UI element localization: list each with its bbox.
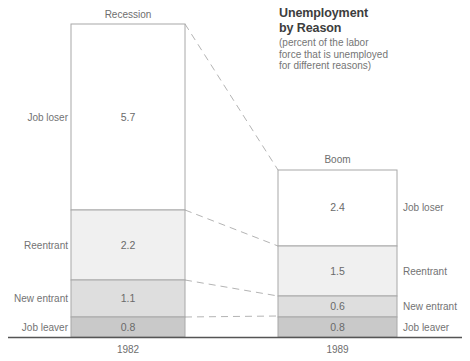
connector-lines bbox=[185, 24, 278, 317]
label-1982-new-entrant: New entrant bbox=[0, 293, 68, 304]
page-title-line-2: by Reason bbox=[279, 21, 464, 36]
value-1982-reentrant: 2.2 bbox=[71, 240, 185, 251]
page-title-line-1: Unemployment bbox=[279, 6, 464, 21]
connector-reentrant bbox=[185, 280, 278, 296]
label-1982-reentrant: Reentrant bbox=[0, 240, 68, 251]
unemployment-by-reason-chart: Unemployment by Reason (percent of the l… bbox=[0, 0, 470, 361]
value-1989-new-entrant: 0.6 bbox=[278, 301, 397, 312]
bar-1982 bbox=[71, 24, 185, 337]
connector-new-entrant bbox=[185, 316, 278, 317]
bar-1989-header: Boom bbox=[278, 154, 397, 165]
chart-subtitle-line-3: for different reasons) bbox=[279, 60, 464, 72]
label-1989-job-leaver: Job leaver bbox=[403, 322, 469, 333]
value-1982-job-loser: 5.7 bbox=[71, 112, 185, 123]
label-1982-job-leaver: Job leaver bbox=[0, 322, 68, 333]
chart-subtitle-line-2: force that is unemployed bbox=[279, 49, 464, 61]
axis-label-1982: 1982 bbox=[71, 344, 185, 355]
label-1989-reentrant: Reentrant bbox=[403, 266, 469, 277]
label-1982-job-loser: Job loser bbox=[0, 112, 68, 123]
connector-job-loser bbox=[185, 210, 278, 246]
chart-title-block: Unemployment by Reason (percent of the l… bbox=[279, 6, 464, 72]
value-1989-job-leaver: 0.8 bbox=[278, 322, 397, 333]
value-1982-job-leaver: 0.8 bbox=[71, 322, 185, 333]
label-1989-new-entrant: New entrant bbox=[403, 301, 469, 312]
axis-label-1989: 1989 bbox=[278, 344, 397, 355]
bar-1982-header: Recession bbox=[71, 9, 185, 20]
value-1989-reentrant: 1.5 bbox=[278, 266, 397, 277]
chart-subtitle-line-1: (percent of the labor bbox=[279, 37, 464, 49]
connector-top bbox=[185, 24, 278, 170]
value-1989-job-loser: 2.4 bbox=[278, 202, 397, 213]
label-1989-job-loser: Job loser bbox=[403, 202, 469, 213]
value-1982-new-entrant: 1.1 bbox=[71, 293, 185, 304]
